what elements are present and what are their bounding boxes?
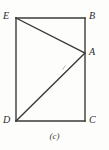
segment-EA — [16, 18, 85, 53]
vertex-label-B: B — [89, 11, 95, 21]
segment-DA — [16, 53, 85, 121]
vertex-label-E: E — [3, 11, 9, 21]
figure-caption: (c) — [0, 132, 109, 141]
vertex-label-C: C — [89, 115, 96, 125]
geometry-canvas — [0, 0, 109, 150]
tick-mark-on-DA — [63, 66, 66, 70]
vertex-label-D: D — [3, 115, 10, 125]
geometry-figure: E B A C D (c) — [0, 0, 109, 150]
vertex-label-A: A — [89, 47, 95, 57]
